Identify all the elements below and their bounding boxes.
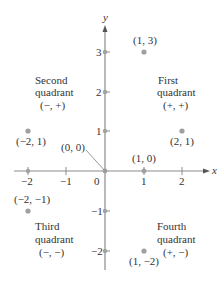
quadrant-second: Second quadrant (−, +): [35, 74, 73, 112]
svg-text:(2, 1): (2, 1): [170, 135, 194, 148]
y-tick-label: −1: [91, 205, 103, 217]
svg-text:(1, −2): (1, −2): [129, 255, 159, 268]
y-axis-label: y: [102, 11, 108, 23]
point-neg2-neg1: (−2, −1): [14, 193, 51, 214]
svg-text:(−2, 1): (−2, 1): [16, 135, 46, 148]
origin-leader-line: [86, 150, 105, 171]
svg-text:quadrant: quadrant: [35, 233, 73, 245]
svg-text:(+, +): (+, +): [163, 99, 189, 112]
svg-text:quadrant: quadrant: [35, 86, 73, 98]
svg-text:(−, +): (−, +): [40, 99, 66, 112]
x-tick-label: −1: [60, 175, 72, 187]
svg-text:(1, 3): (1, 3): [133, 34, 157, 47]
point-1-0: (1, 0): [132, 152, 156, 173]
quadrant-third: Third quadrant (−, −): [35, 220, 73, 259]
y-tick-label: 2: [96, 86, 102, 98]
point-neg2-1: (−2, 1): [16, 128, 46, 148]
y-tick-label: −2: [91, 245, 103, 257]
y-tick-label: 1: [96, 125, 102, 137]
origin-label: 0: [94, 175, 100, 187]
quadrant-first: First quadrant (+, +): [157, 74, 195, 112]
svg-text:Second: Second: [35, 74, 68, 86]
coordinate-plane: x y −2 −1 0 1 2 3 2 1 −1 −2: [0, 0, 224, 282]
svg-text:quadrant: quadrant: [157, 86, 195, 98]
svg-text:(−, −): (−, −): [39, 246, 65, 259]
x-tick-label: 1: [141, 175, 147, 187]
point-0-0: (0, 0): [61, 141, 85, 154]
x-axis-label: x: [211, 164, 217, 176]
svg-text:Third: Third: [35, 220, 60, 232]
x-tick-label: 2: [179, 175, 185, 187]
x-tick-label: −2: [21, 175, 33, 187]
svg-text:(+, −): (+, −): [163, 246, 189, 259]
svg-text:Fourth: Fourth: [157, 220, 187, 232]
point-1-3: (1, 3): [133, 34, 157, 55]
svg-text:(1, 0): (1, 0): [132, 152, 156, 165]
point-2-1: (2, 1): [170, 128, 194, 148]
svg-text:First: First: [158, 74, 178, 86]
y-axis-arrow-icon: [103, 25, 108, 32]
x-axis-arrow-icon: [203, 169, 210, 174]
quadrant-fourth: Fourth quadrant (+, −): [157, 220, 195, 259]
point-1-neg2: (1, −2): [129, 248, 159, 268]
y-tick-label: 3: [96, 46, 102, 58]
svg-text:(−2, −1): (−2, −1): [14, 193, 51, 206]
svg-text:quadrant: quadrant: [157, 233, 195, 245]
svg-text:(0, 0): (0, 0): [61, 141, 85, 154]
x-ticks: −2 −1 0 1 2: [21, 167, 185, 187]
y-ticks: 3 2 1 −1 −2: [91, 46, 110, 257]
